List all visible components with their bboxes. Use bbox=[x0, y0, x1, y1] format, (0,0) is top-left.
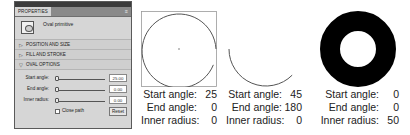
inner-radius-caption: Inner radius: bbox=[141, 114, 199, 127]
inner-radius-slider[interactable] bbox=[57, 101, 105, 102]
end-angle-input[interactable]: 0.00 bbox=[109, 85, 127, 93]
oval-primitive-icon bbox=[21, 21, 34, 34]
example-oval-start-45-end-180 bbox=[228, 11, 304, 87]
primitive-header: Oval primitive bbox=[15, 17, 131, 40]
reset-button[interactable]: Reset bbox=[109, 107, 127, 116]
inner-radius-caption: Inner radius: bbox=[321, 114, 379, 127]
section-label: OVAL OPTIONS bbox=[26, 60, 60, 69]
oval-arc-shape bbox=[228, 11, 304, 87]
start-angle-value: 0 bbox=[379, 88, 399, 101]
example-2-caption: Start angle:45 End angle:180 Inner radiu… bbox=[226, 88, 302, 127]
start-angle-caption: Start angle: bbox=[228, 88, 282, 101]
inner-radius-slider-thumb[interactable] bbox=[55, 98, 59, 103]
start-angle-row: Start angle: 25.00 bbox=[15, 73, 131, 84]
end-angle-value: 0 bbox=[197, 101, 217, 114]
inner-radius-value: 50 bbox=[379, 114, 399, 127]
end-angle-row: End angle: 0.00 bbox=[15, 84, 131, 95]
section-label: POSITION AND SIZE bbox=[26, 40, 70, 49]
example-oval-inner-radius-50 bbox=[320, 11, 396, 87]
end-angle-caption: End angle: bbox=[147, 101, 197, 114]
section-label: FILL AND STROKE bbox=[26, 50, 66, 59]
example-3-caption: Start angle:0 End angle:0 Inner radius:5… bbox=[316, 88, 399, 127]
start-angle-input[interactable]: 25.00 bbox=[109, 74, 127, 82]
end-angle-value: 180 bbox=[282, 101, 302, 114]
section-fill-and-stroke[interactable]: ▷ FILL AND STROKE bbox=[15, 50, 131, 60]
end-angle-caption: End angle: bbox=[329, 101, 379, 114]
panel-menu-icon[interactable]: ≡ bbox=[125, 7, 128, 16]
start-angle-slider-thumb[interactable] bbox=[55, 76, 59, 81]
end-angle-slider-thumb[interactable] bbox=[55, 87, 59, 92]
start-angle-caption: Start angle: bbox=[143, 88, 197, 101]
inner-radius-value: 0 bbox=[284, 114, 302, 127]
inner-radius-caption: Inner radius: bbox=[226, 114, 284, 127]
example-oval-start-25 bbox=[141, 11, 217, 87]
chevron-down-icon: ▽ bbox=[19, 61, 23, 69]
start-angle-value: 25 bbox=[197, 88, 217, 101]
properties-panel: PROPERTIES ≡ Oval primitive ▷ POSITION A… bbox=[14, 1, 132, 129]
oval-options-footer: Close path Reset bbox=[15, 106, 131, 118]
oval-25-degree-gap-shape bbox=[141, 11, 217, 87]
close-path-checkbox[interactable] bbox=[55, 109, 60, 114]
section-position-and-size[interactable]: ▷ POSITION AND SIZE bbox=[15, 40, 131, 50]
ring-shape bbox=[320, 11, 396, 87]
end-angle-value: 0 bbox=[379, 101, 399, 114]
close-path-label: Close path bbox=[62, 108, 84, 113]
start-angle-slider[interactable] bbox=[57, 79, 105, 80]
start-angle-label: Start angle: bbox=[26, 75, 50, 80]
section-oval-options[interactable]: ▽ OVAL OPTIONS bbox=[15, 60, 131, 70]
example-1-caption: Start angle:25 End angle:0 Inner radius:… bbox=[141, 88, 217, 127]
inner-radius-value: 0 bbox=[199, 114, 217, 127]
end-angle-slider[interactable] bbox=[57, 90, 105, 91]
inner-radius-input[interactable]: 0.00 bbox=[109, 96, 127, 104]
chevron-right-icon: ▷ bbox=[19, 51, 23, 59]
end-angle-caption: End angle: bbox=[232, 101, 282, 114]
inner-radius-label: Inner radius: bbox=[23, 97, 49, 102]
end-angle-label: End angle: bbox=[27, 86, 49, 91]
primitive-label: Oval primitive bbox=[43, 21, 73, 27]
chevron-right-icon: ▷ bbox=[19, 41, 23, 49]
panel-tabbar: PROPERTIES ≡ bbox=[15, 7, 131, 17]
inner-radius-row: Inner radius: 0.00 bbox=[15, 95, 131, 106]
start-angle-value: 45 bbox=[282, 88, 302, 101]
tab-properties[interactable]: PROPERTIES bbox=[15, 7, 51, 16]
start-angle-caption: Start angle: bbox=[325, 88, 379, 101]
